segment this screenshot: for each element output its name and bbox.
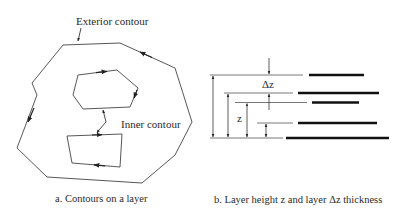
inner-direction-arrow-icon (134, 90, 137, 98)
inner-direction-arrow-icon (96, 71, 107, 72)
inner-contour-leader (97, 110, 106, 133)
figure-a-contours: Exterior contour Inner contour a. Contou… (17, 15, 192, 204)
figure-a-caption: a. Contours on a layer (55, 193, 148, 204)
figure-b-layers: Δz z b. Layer height z and layer Δz thic… (210, 58, 389, 205)
contour-layer-diagram: Exterior contour Inner contour a. Contou… (0, 0, 403, 213)
exterior-contour-label: Exterior contour (76, 15, 149, 27)
inner-direction-arrow-icon (94, 165, 105, 166)
inner-contour-label: Inner contour (121, 118, 181, 130)
inner-contour-hexagon (73, 70, 138, 109)
inner-contour-quad (67, 134, 122, 167)
z-label: z (237, 112, 242, 124)
figure-b-caption: b. Layer height z and layer Δz thickness (214, 194, 382, 205)
exterior-contour-leader (78, 28, 81, 41)
exterior-direction-arrow-icon (140, 52, 152, 58)
delta-z-label: Δz (262, 78, 274, 90)
exterior-contour (17, 43, 192, 183)
